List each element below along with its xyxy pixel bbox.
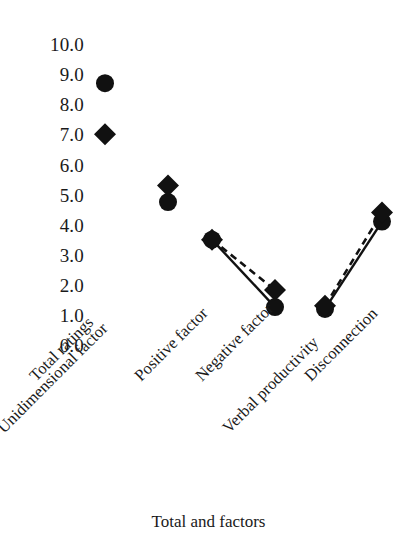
x-axis-title: Total and factors <box>0 512 417 532</box>
chart-container: 10.0 9.0 8.0 7.0 6.0 5.0 4.0 3.0 2.0 1.0… <box>0 0 417 550</box>
x-tick-unidimensional-factor: Unidimensional factor <box>0 319 111 436</box>
x-axis-tick-labels: Total ratings Unidimensional factor Posi… <box>0 0 417 550</box>
